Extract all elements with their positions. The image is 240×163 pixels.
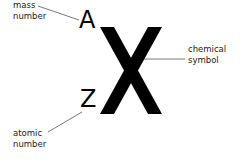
atomic-number-label-line2: number xyxy=(13,139,46,150)
atomic-number-label: atomic number xyxy=(13,128,46,150)
atomic-number-leader-line xyxy=(48,112,82,132)
nuclide-notation-diagram: mass number A X chemical symbol Z atomic… xyxy=(0,0,240,163)
chemical-symbol-x xyxy=(100,27,162,114)
atomic-number-label-line1: atomic xyxy=(13,128,46,139)
atomic-number-letter: Z xyxy=(80,87,96,111)
chemical-symbol-label-line2: symbol xyxy=(188,55,226,66)
mass-number-label: mass number xyxy=(13,0,46,22)
mass-number-label-line2: number xyxy=(13,11,46,22)
chemical-symbol-label: chemical symbol xyxy=(188,44,226,66)
mass-number-letter: A xyxy=(79,8,95,32)
chemical-symbol-label-line1: chemical xyxy=(188,44,226,55)
mass-number-label-line1: mass xyxy=(13,0,46,11)
